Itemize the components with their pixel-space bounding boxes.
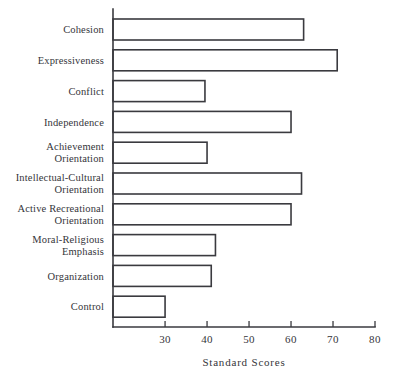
bar <box>113 111 291 132</box>
category-label: Achievement <box>46 141 104 152</box>
x-tick-label: 70 <box>327 333 339 345</box>
category-label: Conflict <box>68 86 104 97</box>
bar <box>113 50 337 71</box>
bar <box>113 296 165 317</box>
x-tick-label: 60 <box>285 333 297 345</box>
bar <box>113 235 215 256</box>
category-label: Expressiveness <box>38 55 104 66</box>
bar <box>113 204 291 225</box>
category-label: Orientation <box>55 153 105 164</box>
category-label: Orientation <box>55 184 105 195</box>
x-tick-label: 80 <box>369 333 381 345</box>
category-labels: CohesionExpressivenessConflictIndependen… <box>16 24 105 312</box>
category-label: Emphasis <box>62 246 104 257</box>
category-label: Independence <box>44 117 104 128</box>
x-tick-label: 50 <box>243 333 255 345</box>
x-axis-ticks: 304050607080 <box>159 321 381 345</box>
bars-group <box>113 19 337 317</box>
category-label: Organization <box>48 271 105 282</box>
bar <box>113 265 211 286</box>
chart-canvas: 304050607080 CohesionExpressivenessConfl… <box>0 0 393 382</box>
bar-chart: 304050607080 CohesionExpressivenessConfl… <box>0 0 393 382</box>
bar <box>113 81 205 102</box>
bar <box>113 142 207 163</box>
category-label: Moral-Religious <box>32 234 104 245</box>
bar <box>113 173 302 194</box>
x-tick-label: 30 <box>159 333 171 345</box>
category-label: Orientation <box>55 215 105 226</box>
category-label: Cohesion <box>63 24 104 35</box>
bar <box>113 19 304 40</box>
category-label: Intellectual-Cultural <box>16 172 104 183</box>
x-tick-label: 40 <box>201 333 213 345</box>
category-label: Control <box>71 301 104 312</box>
x-axis-title: Standard Scores <box>202 356 285 368</box>
category-label: Active Recreational <box>17 203 104 214</box>
